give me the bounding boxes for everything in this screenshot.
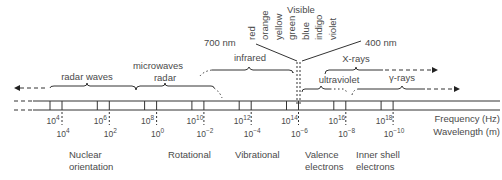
transitions: Nuclear orientation Rotational Vibration… [69,149,400,172]
infrared-brace [212,67,293,73]
visible-color-orange: orange [259,10,270,40]
x-rays-brace [325,67,383,74]
wavelength-tick-label: 10−8 [338,127,355,139]
wavelength-ticks: 10410210010−210−410−610−810−10 [56,101,404,139]
em-spectrum-diagram: 10410610810101012101410161018 1041021001… [0,0,502,180]
infrared-low-end-dotted [200,70,212,76]
wavelength-tick-label: 10−4 [244,127,261,139]
visible-color-green: green [286,16,297,40]
frequency-tick-label: 106 [94,114,107,126]
frequency-tick-label: 104 [46,114,59,126]
ultraviolet-label: ultraviolet [319,74,360,85]
ultraviolet-dotted-end [330,89,347,94]
wavelength-tick-label: 102 [104,127,117,139]
transition-valence-line1: Valence [305,149,339,160]
ultraviolet-brace [302,86,330,92]
transition-nuclear-line1: Nuclear [69,149,102,160]
visible-color-red: red [246,26,257,40]
visible-color-violet: violet [327,17,338,40]
radar-waves-brace [50,83,214,90]
radar-label: radar [154,72,176,83]
x-rays-label: X-rays [342,53,370,64]
400nm-label: 400 nm [365,37,397,48]
transition-valence-line2: electrons [305,161,344,172]
wavelength-axis-label: Wavelength (m) [433,126,500,137]
microwave-high-end-dotted [214,88,222,98]
infrared-label: infrared [234,52,266,63]
gamma-rays-arrowhead-icon [454,86,460,92]
gamma-rays-brace [358,86,425,89]
wavelength-tick-label: 10−2 [196,127,213,139]
gamma-rays-label: γ-rays [389,72,415,83]
frequency-tick-label: 1012 [234,114,251,126]
transition-nuclear-line2: orientation [69,161,113,172]
radar-waves-label: radar waves [61,71,113,82]
wavelength-tick-label: 10−10 [384,127,405,139]
transition-inner-shell-line2: electrons [356,161,395,172]
gamma-rays-dotted-start [352,89,358,95]
x-rays-arrowhead-icon [432,67,438,73]
frequency-tick-label: 1018 [376,114,393,126]
frequency-tick-label: 1014 [281,114,298,126]
wavelength-tick-label: 100 [151,127,164,139]
wavelength-tick-label: 10−6 [291,127,308,139]
microwaves-label: microwaves [133,60,183,71]
frequency-tick-label: 1010 [187,114,204,126]
visible-color-yellow: yellow [273,13,284,40]
left-arrowhead-icon [14,85,20,91]
visible-color-blue: blue [300,22,311,40]
frequency-ticks: 10410610810101012101410161018 [46,101,392,126]
left-arrow [14,85,46,91]
transition-rotational: Rotational [168,149,211,160]
frequency-tick-label: 108 [141,114,154,126]
frequency-tick-label: 1016 [328,114,345,126]
transition-inner-shell-line1: Inner shell [356,149,400,160]
700nm-label: 700 nm [204,37,236,48]
wavelength-tick-label: 104 [56,127,69,139]
visible-color-indigo: indigo [313,15,324,40]
axis-band [14,101,500,110]
visible-title: Visible [287,4,315,15]
frequency-axis-label: Frequency (Hz) [435,113,500,124]
transition-vibrational: Vibrational [235,149,280,160]
